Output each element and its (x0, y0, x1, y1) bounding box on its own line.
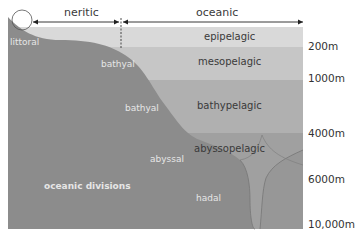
depth-1000m: 1000m (308, 73, 345, 84)
neritic-arrowhead-right-icon (114, 20, 119, 25)
oceanic-arrowhead-right-icon (298, 20, 303, 25)
depth-6000m: 6000m (308, 174, 345, 185)
abyssal-label: abyssal (150, 155, 184, 164)
bathypelagic-label: bathypelagic (197, 101, 262, 111)
depth-10000m: 10,000m (308, 219, 355, 230)
depth-200m: 200m (308, 41, 338, 52)
abyssopelagic-label: abyssopelagic (194, 144, 265, 154)
diagram-title: oceanic divisions (44, 182, 131, 191)
oceanic-divisions-diagram: neritic oceanic epipelagic mesopelagic b… (0, 0, 357, 239)
mesopelagic-label: mesopelagic (198, 57, 261, 67)
bathyal-lower-label: bathyal (125, 104, 159, 113)
diagram-graphic (0, 0, 357, 239)
bathyal-upper-label: bathyal (101, 60, 135, 69)
neritic-label: neritic (64, 7, 99, 18)
oceanic-label: oceanic (196, 7, 238, 18)
neritic-arrowhead-left-icon (33, 20, 38, 25)
depth-4000m: 4000m (308, 128, 345, 139)
epipelagic-label: epipelagic (204, 32, 255, 42)
hadal-label: hadal (196, 194, 221, 203)
littoral-label: littoral (10, 38, 39, 47)
oceanic-arrowhead-left-icon (123, 20, 128, 25)
